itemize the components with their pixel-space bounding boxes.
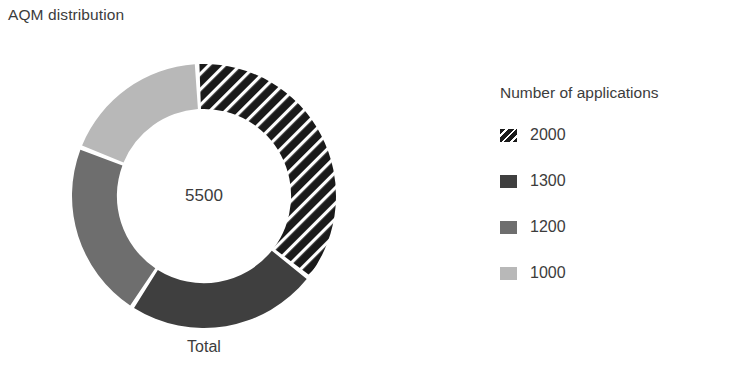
- legend-label-1200: 1200: [530, 219, 566, 235]
- legend-item-1300[interactable]: 1300: [500, 158, 725, 204]
- donut-chart-svg: [70, 62, 338, 330]
- legend-label-1000: 1000: [530, 265, 566, 281]
- legend-swatch-1000-icon: [500, 267, 517, 280]
- donut-slice-group: [72, 64, 336, 328]
- legend-title: Number of applications: [500, 84, 725, 102]
- donut-chart-plot-area: 5500: [70, 62, 338, 330]
- legend-item-1000[interactable]: 1000: [500, 250, 725, 296]
- legend-label-2000: 2000: [530, 127, 566, 143]
- legend-swatch-1200-icon: [500, 221, 517, 234]
- chart-legend: Number of applications 2000 1300 1200 10…: [500, 84, 725, 296]
- legend-item-1200[interactable]: 1200: [500, 204, 725, 250]
- legend-item-2000[interactable]: 2000: [500, 112, 725, 158]
- donut-slice-2000[interactable]: [199, 64, 336, 275]
- category-axis-label: Total: [70, 338, 338, 356]
- legend-swatch-1300-icon: [500, 175, 517, 188]
- donut-slice-1200[interactable]: [72, 150, 155, 306]
- donut-slice-1300[interactable]: [134, 251, 307, 328]
- legend-label-1300: 1300: [530, 173, 566, 189]
- legend-swatch-2000-icon: [500, 129, 517, 142]
- donut-slice-1000[interactable]: [82, 64, 198, 162]
- chart-title: AQM distribution: [8, 6, 124, 24]
